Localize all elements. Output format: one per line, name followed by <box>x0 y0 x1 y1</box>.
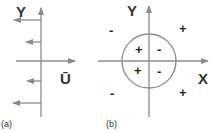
sign-outer-top-left: - <box>109 24 113 37</box>
sign-inner-top-right: - <box>157 43 161 56</box>
panel-a-caption: (a) <box>1 120 12 129</box>
panel-b-y-label: Y <box>127 3 137 18</box>
panel-a-graphics <box>13 8 75 117</box>
panel-b-x-label: X <box>198 71 208 86</box>
sign-inner-bottom-right: - <box>157 65 161 78</box>
sign-outer-top-right: + <box>179 22 187 35</box>
panel-a-x-label: Ū <box>60 71 71 86</box>
sign-outer-bottom-left: - <box>110 87 114 100</box>
panel-b-graphics <box>98 6 208 117</box>
sign-inner-bottom-left: + <box>134 64 142 77</box>
sign-outer-bottom-right: + <box>179 86 187 99</box>
diagram-canvas <box>0 0 214 133</box>
panel-b-caption: (b) <box>106 120 117 129</box>
sign-inner-top-left: + <box>135 43 143 56</box>
panel-a-y-label: Y <box>16 4 26 19</box>
